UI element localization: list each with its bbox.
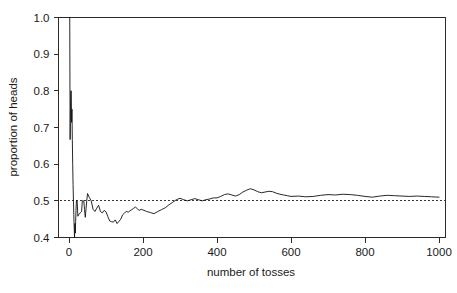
y-tick-label: 0.8 (34, 85, 50, 97)
y-tick-label: 0.4 (34, 232, 51, 244)
plot-frame-box (59, 18, 446, 238)
series-line (69, 18, 439, 238)
x-tick-label: 600 (281, 246, 300, 258)
line-chart: 02004006008001000 0.40.50.60.70.80.91.0 … (0, 0, 457, 293)
x-axis-title: number of tosses (207, 266, 295, 278)
x-tick-label: 200 (133, 246, 152, 258)
plot-frame (59, 18, 446, 238)
y-tick-label: 1.0 (34, 12, 50, 24)
y-axis-title: proportion of heads (7, 77, 19, 176)
y-axis-ticks: 0.40.50.60.70.80.91.0 (34, 12, 59, 244)
figure-container: 02004006008001000 0.40.50.60.70.80.91.0 … (0, 0, 457, 293)
y-tick-label: 0.5 (34, 195, 50, 207)
y-tick-label: 0.7 (34, 122, 50, 134)
x-tick-label: 400 (207, 246, 226, 258)
y-tick-label: 0.6 (34, 158, 50, 170)
x-tick-label: 0 (66, 246, 72, 258)
x-tick-label: 1000 (426, 246, 452, 258)
x-tick-label: 800 (355, 246, 374, 258)
x-axis-ticks: 02004006008001000 (66, 238, 452, 258)
data-series-group (69, 18, 439, 238)
y-tick-label: 0.9 (34, 48, 50, 60)
